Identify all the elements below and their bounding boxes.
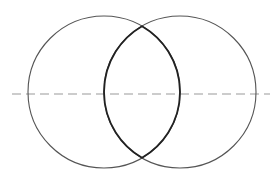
background: [0, 0, 274, 184]
vesica-piscis-diagram: [0, 0, 274, 184]
